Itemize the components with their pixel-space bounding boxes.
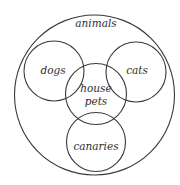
dogs-label: dogs	[40, 64, 66, 76]
animals-label: animals	[75, 17, 117, 29]
cats-label: cats	[126, 64, 148, 76]
house-pets-circle	[66, 64, 127, 125]
venn-diagram: animals dogs cats house pets canaries	[0, 0, 180, 185]
house-pets-label-line1: house	[80, 82, 111, 94]
canaries-label: canaries	[73, 140, 119, 152]
house-pets-label-line2: pets	[85, 95, 108, 107]
